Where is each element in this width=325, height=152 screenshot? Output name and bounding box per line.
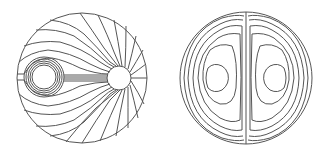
figure (0, 0, 325, 152)
right-vortex (248, 15, 308, 140)
field-lines (17, 13, 147, 143)
right-panel (180, 12, 312, 144)
left-vortex (184, 15, 244, 140)
source-rings (24, 57, 64, 97)
sink-hole (107, 66, 131, 90)
left-panel (17, 13, 147, 143)
field-lines-panel (0, 0, 325, 152)
